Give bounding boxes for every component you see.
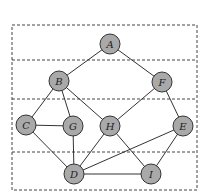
node-d: D [64,164,84,184]
node-label: D [69,169,78,180]
node-label: H [105,121,115,132]
node-label: E [178,121,187,132]
node-label: A [105,39,113,50]
node-h: H [100,116,120,136]
node-label: C [22,120,30,131]
node-e: E [173,116,193,136]
node-i: I [141,164,161,184]
node-label: B [54,76,62,87]
node-a: A [100,34,120,54]
graph-diagram: ABFCGHEDI [0,0,203,196]
node-label: G [69,121,77,132]
node-f: F [152,72,172,92]
edges [26,44,183,174]
node-c: C [16,115,36,135]
node-label: F [158,77,167,88]
node-b: B [49,71,69,91]
node-g: G [63,116,83,136]
nodes: ABFCGHEDI [16,34,193,184]
